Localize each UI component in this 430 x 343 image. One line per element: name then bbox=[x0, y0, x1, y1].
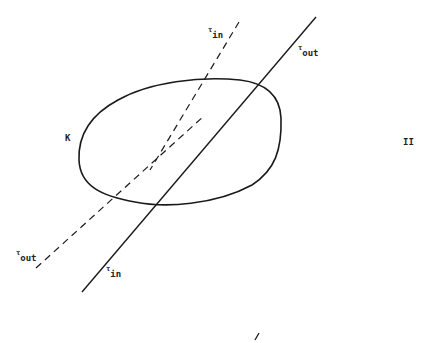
subscript: in bbox=[212, 30, 223, 40]
diagram-canvas bbox=[0, 0, 430, 343]
subscript: in bbox=[110, 269, 121, 279]
stray-mark bbox=[255, 333, 259, 340]
label-region-k: K bbox=[65, 134, 70, 143]
dashed-line-tau-in bbox=[150, 22, 239, 170]
subscript: out bbox=[302, 48, 318, 58]
label-tau-in-bottom: τin bbox=[106, 266, 121, 279]
dashed-line-tau-out bbox=[36, 115, 205, 268]
label-tau-in-top: τin bbox=[208, 27, 223, 40]
curve-k bbox=[79, 79, 281, 205]
solid-tangent-line bbox=[82, 17, 316, 292]
label-figure-number: II bbox=[403, 138, 414, 147]
subscript: out bbox=[20, 253, 36, 263]
label-tau-out-bottom: τout bbox=[16, 250, 36, 263]
label-tau-out-top: τout bbox=[298, 45, 318, 58]
